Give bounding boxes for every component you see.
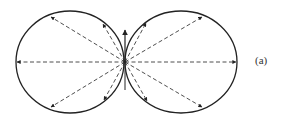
vector-arrow <box>125 62 147 101</box>
vector-arrow <box>104 62 125 100</box>
vector-arrow <box>125 62 202 107</box>
vector-arrow <box>103 24 125 62</box>
vector-arrow <box>125 23 146 62</box>
vector-arrow <box>51 62 125 107</box>
figure-label: (a) <box>255 54 267 66</box>
vector-arrow <box>51 17 125 62</box>
dipole-pattern-diagram <box>0 0 290 123</box>
vector-arrow <box>125 17 202 62</box>
